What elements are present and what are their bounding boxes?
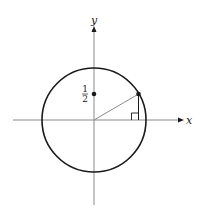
- y-axis-label: y: [90, 14, 98, 27]
- point-on-y-axis: [92, 92, 97, 97]
- fraction-numerator: 1: [82, 84, 88, 94]
- diagram-canvas: x y 1 2: [0, 0, 201, 214]
- point-on-circle: [136, 92, 141, 97]
- x-axis-arrow-icon: [178, 118, 184, 123]
- fraction-denominator: 2: [82, 94, 88, 104]
- right-angle-marker: [132, 113, 139, 120]
- x-axis-label: x: [186, 114, 193, 127]
- unit-circle-diagram: x y 1 2: [0, 0, 201, 214]
